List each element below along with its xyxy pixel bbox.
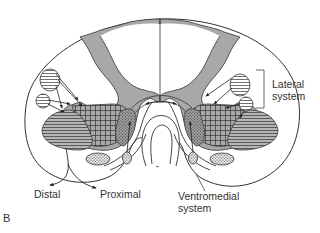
lateral-tract-oval-right-upper [230, 74, 250, 96]
proximal-label: Proximal [100, 188, 141, 200]
panel-letter: B [3, 212, 10, 224]
ventral-tract-oval-left-large [86, 153, 110, 165]
lateral-tract-oval-left-upper [40, 69, 60, 91]
ventral-tract-oval-left-small [123, 152, 132, 164]
ventral-tract-oval-right-small [189, 152, 198, 164]
ventral-tract-oval-right-large [210, 153, 234, 165]
ventromedial-system-label: Ventromedial system [178, 190, 239, 214]
spinal-cord-diagram: Lateral system Ventromedial system Dista… [0, 0, 320, 233]
lateral-tract-oval-left-lower [36, 94, 50, 108]
lateral-system-label: Lateral system [272, 78, 305, 102]
distal-label: Distal [34, 188, 60, 200]
lateral-tract-oval-right-lower [239, 97, 253, 111]
